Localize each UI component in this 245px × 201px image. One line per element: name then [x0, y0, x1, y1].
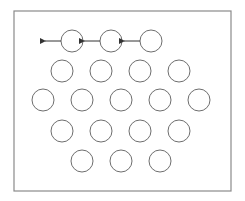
circle-r4-c3 — [129, 120, 151, 142]
diagram-frame — [14, 11, 231, 191]
circle-r3-c1 — [32, 89, 54, 111]
circle-r2-c1 — [51, 60, 73, 82]
circle-r4-c2 — [90, 120, 112, 142]
circle-r3-c5 — [188, 89, 210, 111]
circle-r2-c4 — [168, 60, 190, 82]
circle-r3-c2 — [71, 89, 93, 111]
circle-r1-c2 — [100, 30, 122, 52]
circle-r4-c4 — [168, 120, 190, 142]
circle-r1-c1 — [61, 30, 83, 52]
diagram-canvas — [0, 0, 245, 201]
circle-r5-c2 — [110, 150, 132, 172]
circle-r5-c1 — [71, 150, 93, 172]
circle-r5-c3 — [149, 150, 171, 172]
circle-r1-c3 — [140, 30, 162, 52]
circle-r3-c3 — [110, 89, 132, 111]
circle-r3-c4 — [149, 89, 171, 111]
circle-grid — [32, 30, 210, 172]
circle-r4-c1 — [51, 120, 73, 142]
circle-r2-c2 — [90, 60, 112, 82]
circle-r2-c3 — [129, 60, 151, 82]
